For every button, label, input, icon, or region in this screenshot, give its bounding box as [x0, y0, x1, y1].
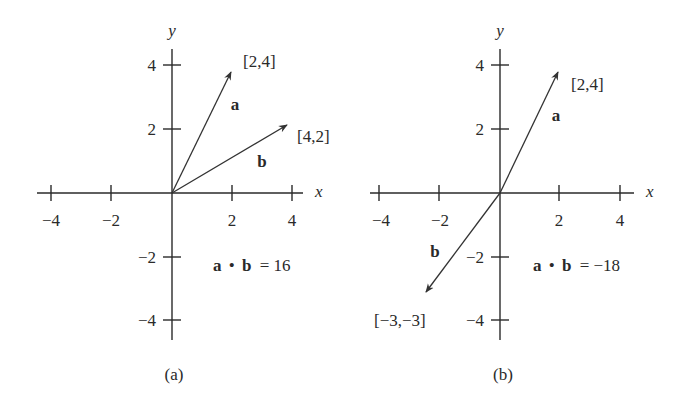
- y-tick-label: −4: [138, 311, 157, 330]
- x-tick-label: −2: [102, 211, 120, 230]
- dot-operator: •: [549, 256, 555, 275]
- eq-vector-a: a: [213, 256, 222, 275]
- panel-a: −4 −2 2 4 4 2 −2 −4 x y a b [2,4] [4,2] …: [37, 21, 330, 384]
- vector-a-coord: [2,4]: [571, 75, 604, 94]
- x-tick-label: −4: [42, 211, 61, 230]
- dot-product-equation: a • b = 16: [213, 256, 291, 275]
- eq-vector-a: a: [533, 256, 542, 275]
- panel-caption: (b): [493, 365, 513, 384]
- x-tick-label: 4: [616, 211, 625, 230]
- x-axis-label: x: [645, 182, 654, 201]
- eq-result: = −18: [580, 256, 620, 275]
- y-tick-label: 4: [148, 56, 157, 75]
- vector-b-coord: [−3,−3]: [374, 311, 426, 330]
- vector-a-label: a: [231, 95, 240, 114]
- dot-product-equation: a • b = −18: [533, 256, 620, 275]
- x-tick-label: 4: [288, 211, 297, 230]
- eq-vector-b: b: [242, 256, 251, 275]
- y-tick-label: −2: [466, 248, 484, 267]
- x-tick-label: −4: [372, 211, 391, 230]
- y-tick-label: 2: [148, 120, 157, 139]
- eq-result: = 16: [260, 256, 291, 275]
- vector-a-coord: [2,4]: [243, 52, 276, 71]
- panel-b: −4 −2 2 4 4 2 −2 −4 x y a b [2,4] [−3,−3…: [370, 21, 654, 384]
- dot-product-figure: −4 −2 2 4 4 2 −2 −4 x y a b [2,4] [4,2] …: [0, 0, 694, 409]
- y-axis-label: y: [166, 21, 176, 40]
- vector-b-label: b: [257, 152, 266, 171]
- y-tick-label: −4: [466, 311, 485, 330]
- dot-operator: •: [229, 256, 235, 275]
- y-tick-label: 4: [476, 56, 485, 75]
- y-tick-label: −2: [138, 248, 156, 267]
- x-tick-label: 2: [555, 211, 564, 230]
- panel-caption: (a): [165, 365, 184, 384]
- vector-b-coord: [4,2]: [297, 127, 330, 146]
- y-axis-label: y: [494, 21, 504, 40]
- x-tick-label: 2: [228, 211, 237, 230]
- eq-vector-b: b: [562, 256, 571, 275]
- vector-a-label: a: [552, 106, 561, 125]
- y-tick-label: 2: [476, 120, 485, 139]
- vector-b-label: b: [430, 242, 439, 261]
- x-tick-label: −2: [431, 211, 449, 230]
- vector-a-arrow: [500, 72, 558, 193]
- x-axis-label: x: [314, 182, 323, 201]
